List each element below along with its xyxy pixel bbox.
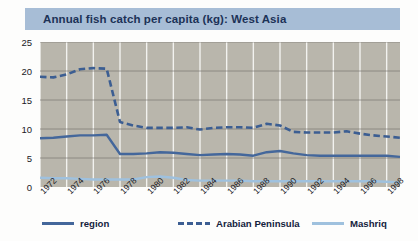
legend-swatch-icon — [42, 222, 74, 225]
legend-swatch-icon — [312, 222, 344, 225]
chart-page: Annual fish catch per capita (kg): West … — [0, 0, 418, 241]
page-title: Annual fish catch per capita (kg): West … — [25, 13, 286, 25]
y-axis-tick-label: 10 — [21, 124, 32, 135]
legend-item-region[interactable]: region — [42, 218, 109, 229]
y-axis-tick-label: 5 — [27, 153, 32, 164]
line-chart-svg — [40, 42, 400, 187]
plot-area — [40, 42, 400, 187]
chart-area: 0510152025 19721974197619781980198219841… — [0, 30, 418, 205]
legend-swatch-icon — [178, 222, 210, 225]
chart-title-bar: Annual fish catch per capita (kg): West … — [25, 8, 400, 30]
legend-label: Arabian Peninsula — [216, 218, 300, 229]
chart-legend: regionArabian PeninsulaMashriq — [0, 218, 418, 238]
legend-item-arabian-peninsula[interactable]: Arabian Peninsula — [178, 218, 300, 229]
y-axis-tick-label: 25 — [21, 37, 32, 48]
legend-label: Mashriq — [350, 218, 387, 229]
legend-item-mashriq[interactable]: Mashriq — [312, 218, 387, 229]
y-axis-tick-label: 15 — [21, 95, 32, 106]
y-axis-tick-label: 0 — [27, 182, 32, 193]
y-axis-labels: 0510152025 — [0, 42, 36, 187]
legend-label: region — [80, 218, 109, 229]
y-axis-tick-label: 20 — [21, 66, 32, 77]
